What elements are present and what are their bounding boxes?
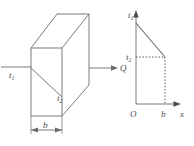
slab-edge-top-right xyxy=(62,14,89,48)
temperature-profile-chart: t1 t2 O b x xyxy=(126,10,184,119)
chart-temperature-profile-line xyxy=(136,23,165,57)
slab-top-face xyxy=(31,14,89,48)
slab-edge-top-left xyxy=(31,14,57,48)
chart-label-t2-tick: t2 xyxy=(126,52,132,63)
slab-diagram: t1 t2 Q b xyxy=(1,14,127,134)
label-t1: t1 xyxy=(9,70,15,81)
heat-flux-arrow xyxy=(89,65,118,71)
chart-x-axis-arrowhead xyxy=(174,101,182,106)
slab-edge-bottom-right-diagonal xyxy=(62,85,89,116)
label-thickness-b: b xyxy=(43,120,48,130)
chart-label-origin: O xyxy=(130,109,137,119)
chart-label-b-tick: b xyxy=(161,109,166,119)
heat-flux-arrow-head xyxy=(111,65,118,71)
label-Q: Q xyxy=(120,63,127,73)
thickness-arrow-left xyxy=(31,128,38,133)
thickness-arrow-right xyxy=(55,128,62,133)
figure-svg: t1 t2 Q b xyxy=(0,0,194,146)
chart-label-t-axis: t1 xyxy=(128,10,134,21)
thermal-conduction-figure: t1 t2 Q b xyxy=(0,0,194,146)
chart-x-axis xyxy=(136,101,181,106)
chart-label-x-axis: x xyxy=(179,109,184,119)
slab-right-face xyxy=(62,14,89,116)
chart-y-axis-arrowhead xyxy=(133,10,138,18)
